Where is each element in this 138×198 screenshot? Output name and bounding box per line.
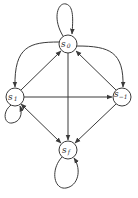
node-s0: s0 [59,35,77,53]
node-s1: s1 [6,88,24,106]
edge-s1-to-s0 [21,51,61,90]
edge-s0-to-sm1 [77,46,123,87]
edge-s0-to-s1 [15,42,59,87]
state-diagram: s0 s1 s−1 sf [0,0,138,198]
edge-sm1-to-s0 [76,51,116,90]
edge-s0-s0-loop [57,4,73,36]
edge-s1-sf-bidirectional [21,104,61,143]
edge-sf-sf-loop [55,157,78,188]
edge-sm1-to-sf [75,104,116,143]
edge-s1-s1-loop [5,105,21,123]
node-s-minus-1: s−1 [113,88,131,106]
node-sf: sf [59,141,77,159]
